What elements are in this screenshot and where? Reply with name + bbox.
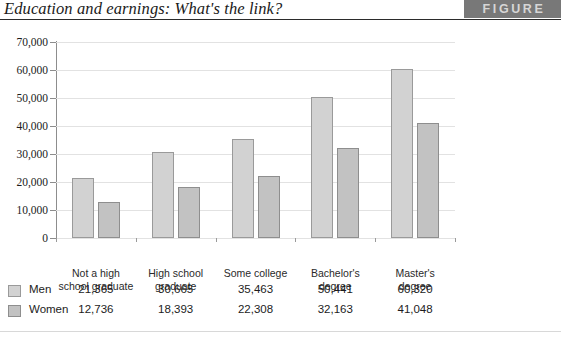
category-label-line: Some college xyxy=(216,267,296,280)
bar-women-1 xyxy=(178,187,200,239)
bar-men-4 xyxy=(391,69,413,238)
legend-label-men: Men xyxy=(29,283,51,295)
bar-chart: 010,00020,00030,00040,00050,00060,00070,… xyxy=(0,24,561,276)
y-axis-label: 30,000 xyxy=(0,149,48,161)
y-axis-tick xyxy=(50,126,56,127)
bar-men-3 xyxy=(311,97,333,238)
bar-men-0 xyxy=(72,178,94,238)
bar-men-2 xyxy=(232,139,254,238)
header-divider xyxy=(0,19,561,20)
table-cell: 21,365 xyxy=(56,283,136,295)
bar-women-2 xyxy=(258,176,280,238)
gridline xyxy=(56,42,455,43)
table-cell: 35,463 xyxy=(216,283,296,295)
table-cell: 18,393 xyxy=(136,303,216,315)
table-cell: 32,163 xyxy=(295,303,375,315)
y-axis-label: 70,000 xyxy=(0,37,48,49)
y-axis-label: 50,000 xyxy=(0,93,48,105)
x-axis-tick xyxy=(455,238,456,242)
category-label-line: Not a high xyxy=(56,267,136,280)
plot-area xyxy=(56,42,455,238)
y-axis-label: 40,000 xyxy=(0,121,48,133)
bar-women-0 xyxy=(98,202,120,238)
y-axis-label: 0 xyxy=(0,233,48,245)
y-axis-labels: 010,00020,00030,00040,00050,00060,00070,… xyxy=(0,24,48,276)
y-axis-tick xyxy=(50,98,56,99)
category-label-line: Master's xyxy=(375,267,455,280)
x-axis-category-label: Some college xyxy=(216,267,296,280)
category-label-line: Bachelor's xyxy=(295,267,375,280)
bar-women-3 xyxy=(337,148,359,238)
category-label-line: High school xyxy=(136,267,216,280)
page-title: Education and earnings: What's the link? xyxy=(4,0,282,19)
y-axis-tick xyxy=(50,154,56,155)
y-axis-tick xyxy=(50,182,56,183)
legend-swatch-men xyxy=(8,285,21,297)
y-axis-tick xyxy=(50,42,56,43)
bar-women-4 xyxy=(417,123,439,238)
legend-swatch-women xyxy=(8,305,21,317)
y-axis-label: 60,000 xyxy=(0,65,48,77)
figure-page: Education and earnings: What's the link?… xyxy=(0,0,561,338)
table-cell: 60,320 xyxy=(375,283,455,295)
table-cell: 22,308 xyxy=(216,303,296,315)
y-axis-label: 20,000 xyxy=(0,177,48,189)
x-axis-tick xyxy=(295,238,296,242)
bar-men-1 xyxy=(152,152,174,238)
figure-badge-label: FIGURE xyxy=(480,2,546,16)
table-row: Women12,73618,39322,30832,16341,048 xyxy=(0,301,561,321)
gridline xyxy=(56,238,455,239)
figure-badge: FIGURE xyxy=(464,0,561,18)
y-axis-label: 10,000 xyxy=(0,205,48,217)
x-axis-tick xyxy=(56,238,57,242)
x-axis-tick xyxy=(136,238,137,242)
table-cell: 41,048 xyxy=(375,303,455,315)
table-cell: 50,441 xyxy=(295,283,375,295)
figure-header: Education and earnings: What's the link?… xyxy=(0,0,561,21)
y-axis-tick xyxy=(50,70,56,71)
data-table: Men21,36530,66535,46350,44160,320Women12… xyxy=(0,281,561,331)
footer-divider xyxy=(0,331,561,332)
y-axis-tick xyxy=(50,210,56,211)
table-cell: 12,736 xyxy=(56,303,136,315)
x-axis-tick xyxy=(216,238,217,242)
table-cell: 30,665 xyxy=(136,283,216,295)
table-row: Men21,36530,66535,46350,44160,320 xyxy=(0,281,561,301)
x-axis-tick xyxy=(375,238,376,242)
